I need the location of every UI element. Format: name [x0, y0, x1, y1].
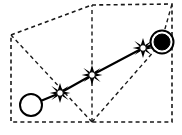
diagram-canvas: [0, 0, 182, 135]
start-node[interactable]: [20, 94, 42, 116]
goal-node[interactable]: [151, 31, 174, 54]
diagram-svg: [0, 0, 182, 135]
